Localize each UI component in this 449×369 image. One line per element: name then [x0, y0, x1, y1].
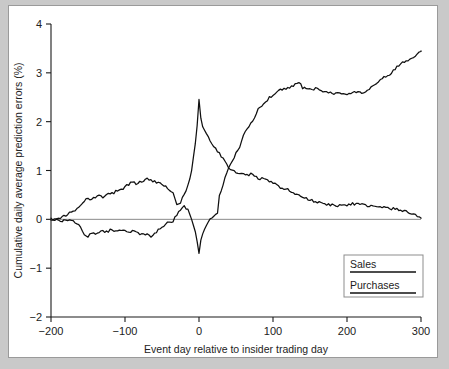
series-line-purchases [51, 51, 421, 253]
y-tick-label: 1 [36, 165, 42, 177]
y-tick-label: −2 [29, 311, 42, 323]
y-tick-label: 0 [36, 213, 42, 225]
chart-canvas: −2−101234 −200−1000100200300 Cumulative … [0, 0, 449, 369]
x-tick-group: −200−1000100200300 [39, 317, 431, 337]
x-tick-label: 0 [196, 325, 202, 337]
x-axis-title: Event day relative to insider trading da… [144, 343, 329, 355]
x-tick-label: −200 [39, 325, 64, 337]
y-tick-group: −2−101234 [29, 18, 51, 323]
y-tick-label: 2 [36, 116, 42, 128]
y-tick-label: 3 [36, 67, 42, 79]
legend[interactable]: Sales Purchases [344, 255, 423, 297]
legend-item-purchases-label: Purchases [350, 279, 400, 291]
y-axis: −2−101234 [29, 18, 51, 323]
y-tick-label: 4 [36, 18, 42, 30]
y-axis-title: Cumulative daily average prediction erro… [12, 63, 24, 279]
legend-item-sales-label: Sales [350, 258, 376, 270]
x-axis: −200−1000100200300 [39, 317, 431, 337]
series-layer [51, 51, 421, 253]
x-tick-label: −100 [113, 325, 138, 337]
series-line-sales [51, 99, 421, 220]
x-tick-label: 300 [412, 325, 430, 337]
x-tick-label: 200 [338, 325, 356, 337]
y-tick-label: −1 [29, 262, 42, 274]
x-tick-label: 100 [264, 325, 282, 337]
